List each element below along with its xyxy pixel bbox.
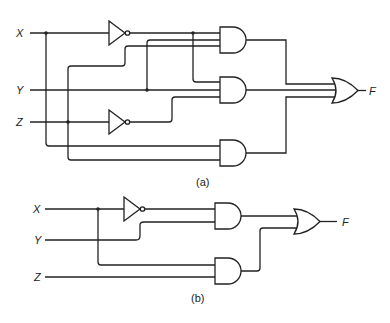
- input-label-x-b: X: [32, 203, 41, 215]
- input-label-y-b: Y: [34, 234, 42, 246]
- circuit-a: X Y Z: [15, 21, 377, 188]
- wire-y-b: [45, 222, 215, 240]
- wire-and2-or-b: [241, 228, 298, 271]
- output-label-f-b: F: [342, 216, 350, 228]
- input-label-x-a: X: [15, 27, 24, 39]
- inversion-bubble: [125, 31, 129, 35]
- and-gate-2-b: [215, 258, 241, 284]
- junction: [44, 31, 48, 35]
- wire-z-and3: [68, 122, 220, 160]
- caption-a: (a): [196, 176, 209, 188]
- wire-and3-or: [246, 97, 336, 153]
- junction: [145, 88, 149, 92]
- input-label-y-a: Y: [16, 84, 24, 96]
- and-gate-3-a: [220, 140, 246, 166]
- wire-zbar-and2: [130, 97, 220, 122]
- caption-b: (b): [191, 292, 204, 304]
- inversion-bubble: [140, 207, 144, 211]
- input-label-z-b: Z: [33, 271, 42, 283]
- input-label-z-a: Z: [15, 116, 24, 128]
- and-gate-2-a: [220, 77, 246, 103]
- logic-circuit-diagram: X Y Z: [0, 0, 390, 323]
- or-gate-b: [294, 209, 320, 234]
- and-gate-1-b: [215, 203, 241, 229]
- output-label-f-a: F: [369, 85, 377, 97]
- not-gate-b: [124, 197, 140, 221]
- wire-and1-or: [246, 40, 336, 84]
- inversion-bubble: [125, 120, 129, 124]
- not-gate-2-a: [109, 110, 125, 134]
- not-gate-1-a: [109, 21, 125, 45]
- wire-z-and1: [68, 46, 220, 122]
- or-gate-a: [332, 78, 358, 103]
- circuit-b: X Y Z F (b): [32, 197, 350, 304]
- wire-x-and2-b: [98, 209, 215, 265]
- junction: [191, 31, 195, 35]
- and-gate-1-a: [220, 27, 246, 53]
